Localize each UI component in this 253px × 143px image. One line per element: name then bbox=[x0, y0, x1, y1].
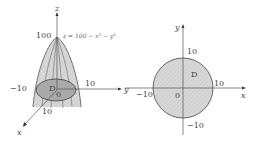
region-label-2d: D bbox=[191, 70, 197, 79]
x-axis-2d-label: x bbox=[241, 91, 246, 100]
x-axis-2d-arrow-icon bbox=[242, 87, 246, 90]
y-tick-10: 10 bbox=[85, 79, 95, 88]
diagram-svg: z 100 z = 100 − x² − y² D 0 10 −10 10 y … bbox=[0, 0, 253, 143]
region-label: D bbox=[49, 84, 55, 93]
y-tick-10-2d: 10 bbox=[187, 47, 197, 56]
x-tick-neg-10-2d: −10 bbox=[136, 90, 153, 99]
y-axis-label: y bbox=[123, 85, 129, 94]
origin-label: 0 bbox=[56, 90, 61, 99]
y-axis-2d-label: y bbox=[174, 23, 180, 32]
x-tick-10: 10 bbox=[42, 107, 52, 116]
y-tick-neg-10-2d: −10 bbox=[187, 121, 204, 130]
x-axis-label: x bbox=[17, 128, 22, 137]
disk-figure: y x 10 D 10 −10 0 −10 bbox=[125, 23, 246, 135]
y-axis-2d-arrow-icon bbox=[182, 24, 185, 28]
paraboloid-figure: z 100 z = 100 − x² − y² D 0 10 −10 10 y … bbox=[10, 4, 129, 137]
y-tick-neg-10: −10 bbox=[10, 84, 27, 93]
surface-equation: z = 100 − x² − y² bbox=[62, 32, 116, 40]
x-tick-10-2d: 10 bbox=[214, 79, 224, 88]
origin-label-2d: 0 bbox=[175, 91, 180, 100]
y-axis-arrow-icon bbox=[118, 88, 122, 91]
z-axis-label: z bbox=[54, 4, 60, 13]
apex-label: 100 bbox=[36, 31, 51, 40]
diagram-canvas: z 100 z = 100 − x² − y² D 0 10 −10 10 y … bbox=[0, 0, 253, 143]
